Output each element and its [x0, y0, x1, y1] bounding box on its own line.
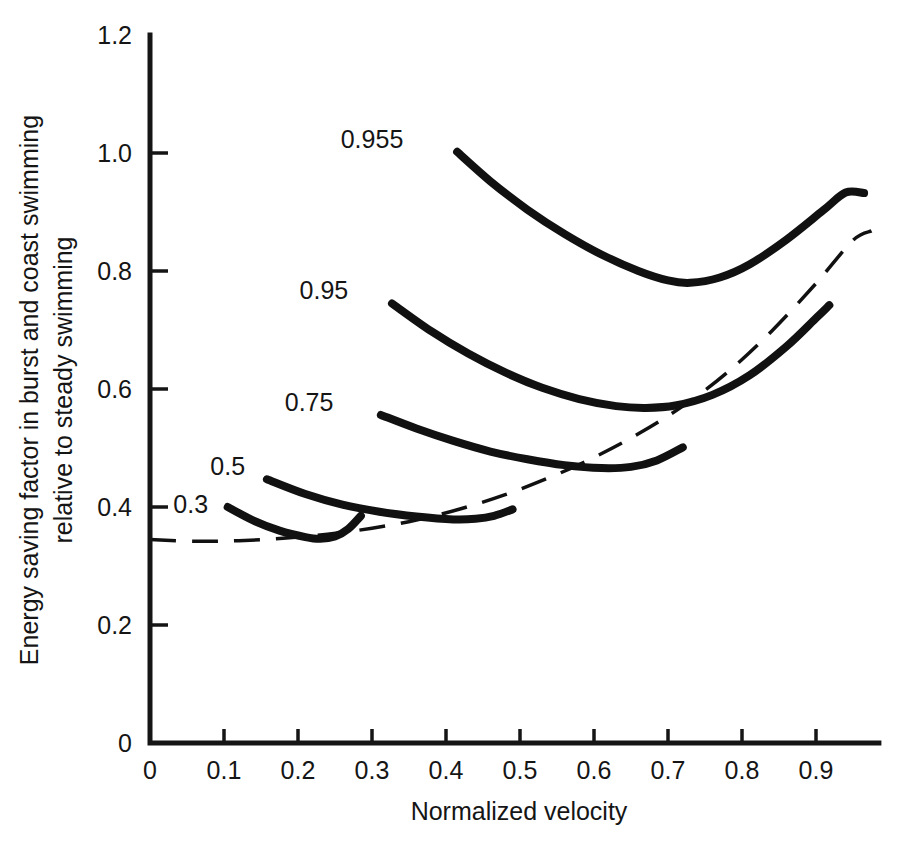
y-axis-tick-labels: 00.20.40.60.81.01.2 [97, 21, 132, 757]
x-tick-label: 0.3 [355, 756, 390, 784]
x-axis-title: Normalized velocity [411, 797, 628, 825]
curve-0.955 [457, 152, 864, 283]
axis-lines [150, 35, 879, 743]
y-axis-ticks [152, 153, 168, 625]
chart-figure: 00.10.20.30.40.50.60.70.80.9 00.20.40.60… [0, 0, 918, 847]
curve-label-0.3: 0.3 [173, 490, 208, 518]
curve-label-0.955: 0.955 [341, 125, 404, 153]
y-axis-title-line2: relative to steady swimming [49, 236, 77, 543]
y-tick-label: 0.4 [97, 493, 132, 521]
curve-label-0.5: 0.5 [210, 452, 245, 480]
curve-value-labels: 0.30.50.750.950.955 [173, 125, 403, 518]
x-tick-label: 0.8 [725, 756, 760, 784]
x-tick-label: 0 [143, 756, 157, 784]
y-tick-label: 1.0 [97, 139, 132, 167]
x-tick-label: 0.4 [429, 756, 464, 784]
x-tick-label: 0.2 [281, 756, 316, 784]
x-axis-tick-labels: 00.10.20.30.40.50.60.70.80.9 [143, 756, 833, 784]
reference-dashed-curve-group [150, 231, 872, 541]
x-axis-ticks [224, 729, 816, 741]
curve-label-0.75: 0.75 [285, 388, 334, 416]
y-tick-label: 0.8 [97, 257, 132, 285]
curve-0.3 [228, 507, 361, 539]
y-tick-label: 0.6 [97, 375, 132, 403]
y-tick-label: 0 [118, 729, 132, 757]
curve-0.75 [381, 415, 683, 468]
y-axis-title-line1: Energy saving factor in burst and coast … [15, 115, 43, 665]
x-tick-label: 0.6 [577, 756, 612, 784]
curve-0.95 [392, 303, 829, 407]
line-chart-canvas: 00.10.20.30.40.50.60.70.80.9 00.20.40.60… [0, 0, 918, 847]
y-tick-label: 0.2 [97, 611, 132, 639]
curve-0.5 [267, 479, 513, 519]
reference-curve [150, 231, 872, 541]
curve-label-0.95: 0.95 [300, 276, 349, 304]
x-tick-label: 0.1 [207, 756, 242, 784]
y-tick-label: 1.2 [97, 21, 132, 49]
x-tick-label: 0.7 [651, 756, 686, 784]
axes-group [150, 35, 879, 743]
x-tick-label: 0.9 [799, 756, 834, 784]
x-tick-label: 0.5 [503, 756, 538, 784]
